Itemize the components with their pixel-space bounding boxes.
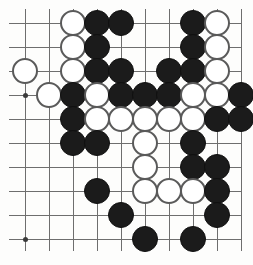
star-point-2	[23, 237, 28, 242]
black-stone[interactable]	[84, 58, 110, 84]
white-stone[interactable]	[36, 82, 62, 108]
white-stone[interactable]	[204, 58, 230, 84]
black-stone[interactable]	[180, 10, 206, 36]
white-stone[interactable]	[12, 58, 38, 84]
white-stone[interactable]	[180, 82, 206, 108]
black-stone[interactable]	[84, 130, 110, 156]
black-stone[interactable]	[204, 178, 230, 204]
white-stone[interactable]	[132, 178, 158, 204]
white-stone[interactable]	[132, 106, 158, 132]
white-stone[interactable]	[180, 106, 206, 132]
white-stone[interactable]	[156, 178, 182, 204]
go-board-grid[interactable]	[0, 0, 253, 265]
black-stone[interactable]	[60, 82, 86, 108]
go-board-screenshot	[0, 0, 253, 265]
white-stone[interactable]	[204, 34, 230, 60]
black-stone[interactable]	[228, 82, 253, 108]
black-stone[interactable]	[60, 106, 86, 132]
black-stone[interactable]	[204, 106, 230, 132]
black-stone[interactable]	[180, 154, 206, 180]
grid-line-horizontal-6	[9, 143, 241, 144]
grid-line-vertical-2	[49, 9, 50, 251]
black-stone[interactable]	[84, 10, 110, 36]
black-stone[interactable]	[108, 58, 134, 84]
black-stone[interactable]	[132, 226, 158, 252]
white-stone[interactable]	[204, 82, 230, 108]
white-stone[interactable]	[60, 58, 86, 84]
black-stone[interactable]	[108, 202, 134, 228]
white-stone[interactable]	[204, 10, 230, 36]
black-stone[interactable]	[204, 202, 230, 228]
grid-line-horizontal-10	[9, 239, 241, 240]
black-stone[interactable]	[180, 130, 206, 156]
black-stone[interactable]	[204, 154, 230, 180]
black-stone[interactable]	[228, 106, 253, 132]
black-stone[interactable]	[84, 178, 110, 204]
white-stone[interactable]	[108, 106, 134, 132]
white-stone[interactable]	[132, 154, 158, 180]
white-stone[interactable]	[132, 130, 158, 156]
black-stone[interactable]	[180, 58, 206, 84]
white-stone[interactable]	[60, 34, 86, 60]
black-stone[interactable]	[108, 10, 134, 36]
black-stone[interactable]	[156, 82, 182, 108]
black-stone[interactable]	[180, 34, 206, 60]
white-stone[interactable]	[180, 178, 206, 204]
black-stone[interactable]	[84, 34, 110, 60]
white-stone[interactable]	[84, 82, 110, 108]
black-stone[interactable]	[60, 130, 86, 156]
black-stone[interactable]	[156, 58, 182, 84]
white-stone[interactable]	[156, 106, 182, 132]
black-stone[interactable]	[108, 82, 134, 108]
black-stone[interactable]	[132, 82, 158, 108]
black-stone[interactable]	[180, 226, 206, 252]
star-point-1	[23, 93, 28, 98]
white-stone[interactable]	[60, 10, 86, 36]
grid-line-vertical-1	[25, 9, 26, 251]
white-stone[interactable]	[84, 106, 110, 132]
